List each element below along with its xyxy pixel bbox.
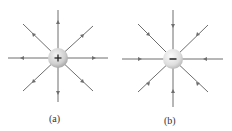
caption-a: (a) xyxy=(49,113,60,124)
electric-field-diagrams xyxy=(0,0,232,131)
negative-charge-diagram xyxy=(122,10,223,107)
caption-b: (b) xyxy=(164,115,176,126)
positive-charge-diagram xyxy=(8,10,108,102)
